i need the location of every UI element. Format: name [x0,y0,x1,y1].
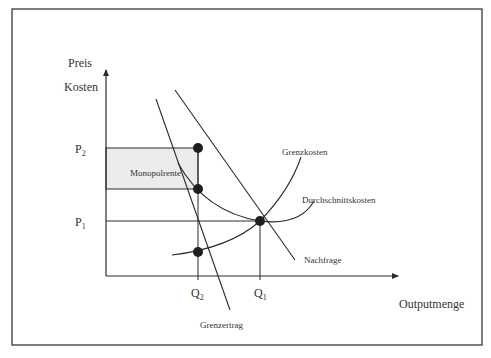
point-mc-mr-q2 [193,247,203,257]
marginal-cost-label: Grenzkosten [282,147,328,157]
demand-label: Nachfrage [304,255,341,265]
x-axis-label: Outputmenge [399,297,464,311]
y-axis-label-kosten: Kosten [64,80,98,94]
average-cost-label: Durchschnittskosten [302,195,376,205]
y-axis-label-preis: Preis [68,56,92,70]
point-ac-q2 [193,184,203,194]
monopoly-rent-label: Monopolrente [130,168,181,178]
p2-label: P2 [75,142,86,158]
q2-label: Q2 [191,286,204,302]
p1-label: P1 [75,215,86,231]
point-p1-q1 [255,216,265,226]
point-p2-q2 [193,143,203,153]
marginal-revenue-label: Grenzertrag [200,320,243,330]
q1-label: Q1 [254,286,267,302]
marginal-revenue-curve [156,99,230,310]
monopoly-diagram: Preis Kosten Outputmenge P2 P1 Q2 Q1 Mon… [0,0,491,358]
